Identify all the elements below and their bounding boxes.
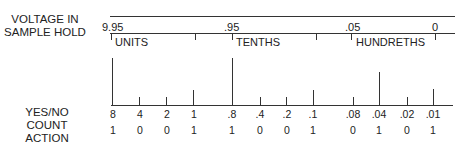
weight-label: 8 [110, 108, 116, 120]
action-value: 0 [350, 124, 356, 136]
weight-label: .2 [283, 108, 292, 120]
weight-label: 1 [191, 108, 197, 120]
weight-bar-point-04 [379, 72, 380, 105]
action-value: 0 [284, 124, 290, 136]
voltage-label: VOLTAGE IN SAMPLE HOLD [0, 13, 90, 39]
count-label-line3: ACTION [12, 132, 82, 145]
voltage-scale-line [110, 33, 455, 34]
weight-bar-point-01 [433, 89, 434, 105]
action-value: 1 [376, 124, 382, 136]
weight-bar-1 [193, 90, 194, 105]
scale-tick [111, 33, 112, 40]
scale-tick [316, 33, 317, 40]
voltage-label-line2: SAMPLE HOLD [0, 26, 90, 39]
scale-label-point-95: .95 [224, 21, 239, 33]
weight-label: 2 [164, 108, 170, 120]
weight-bar-point-2 [286, 97, 287, 105]
voltage-label-line1: VOLTAGE IN [0, 13, 90, 26]
weight-label: .4 [256, 108, 265, 120]
weight-label: .01 [426, 108, 441, 120]
scale-tick [195, 33, 196, 40]
group-hundreths: HUNDRETHS [356, 36, 425, 48]
action-value: 0 [404, 124, 410, 136]
voltage-top-line [110, 16, 455, 17]
scale-tick [435, 33, 436, 40]
weight-bar-2 [166, 97, 167, 105]
scale-label-9-95: 9.95 [102, 21, 123, 33]
action-value: 1 [229, 124, 235, 136]
scale-tick [351, 33, 352, 40]
weight-bar-point-1 [313, 90, 314, 105]
weight-label: .1 [309, 108, 318, 120]
weight-label: .8 [228, 108, 237, 120]
scale-tick [232, 33, 233, 40]
action-value: 1 [310, 124, 316, 136]
group-tenths: TENTHS [236, 36, 280, 48]
scale-label-point-05: .05 [345, 21, 360, 33]
weight-bar-point-8 [232, 58, 233, 105]
count-label-line2: COUNT [12, 119, 82, 132]
weight-label: 4 [137, 108, 143, 120]
weight-bar-4 [139, 97, 140, 105]
weight-label: .02 [400, 108, 415, 120]
action-value: 1 [430, 124, 436, 136]
count-action-label: YES/NO COUNT ACTION [12, 106, 82, 145]
weight-bar-8 [112, 58, 113, 105]
weight-label: .04 [372, 108, 387, 120]
action-value: 0 [164, 124, 170, 136]
action-value: 1 [191, 124, 197, 136]
group-units: UNITS [115, 36, 148, 48]
weight-bar-point-08 [353, 97, 354, 105]
weight-baseline [111, 105, 453, 106]
weight-bar-point-02 [407, 97, 408, 105]
weight-bar-point-4 [260, 97, 261, 105]
weight-label: .08 [346, 108, 361, 120]
action-value: 0 [137, 124, 143, 136]
scale-label-zero: 0 [432, 21, 438, 33]
action-value: 0 [257, 124, 263, 136]
count-label-line1: YES/NO [12, 106, 82, 119]
action-value: 1 [110, 124, 116, 136]
